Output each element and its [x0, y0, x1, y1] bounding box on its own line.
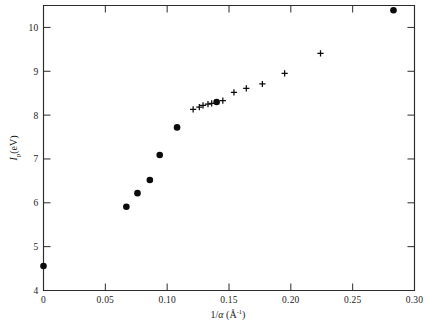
data-point-circle: [156, 152, 163, 159]
x-tick-label: 0.20: [282, 295, 299, 305]
figure-container: 45678910 00.050.100.150.200.250.30 1/α (…: [0, 0, 433, 328]
data-point-circle: [390, 7, 397, 14]
data-point-plus: [220, 98, 226, 104]
data-point-plus: [190, 106, 196, 112]
y-tick-label: 7: [34, 154, 39, 164]
y-tick-label: 8: [34, 111, 39, 121]
x-tick-label: 0.25: [344, 295, 361, 305]
data-point-plus: [282, 70, 288, 76]
y-axis-tick-label-group: 45678910: [29, 23, 39, 296]
y-tick-label: 4: [34, 286, 39, 296]
x-tick-label: 0.15: [220, 295, 237, 305]
data-point-circle: [134, 190, 141, 197]
y-tick-label: 10: [29, 23, 39, 33]
plot-frame: [44, 6, 415, 291]
y-tick-label: 6: [34, 198, 39, 208]
x-axis-title: 1/α (Å-1): [211, 308, 246, 321]
data-marker-group: [40, 7, 397, 269]
scatter-plot-canvas: 45678910 00.050.100.150.200.250.30 1/α (…: [0, 0, 433, 328]
data-point-plus: [231, 89, 237, 95]
series-plus-marker-series: [190, 50, 324, 112]
y-axis-tick-group: [44, 27, 415, 290]
data-point-circle: [147, 177, 154, 184]
y-axis-title-unit: (eV): [8, 135, 20, 153]
x-tick-label: 0: [41, 295, 46, 305]
series-filled-circle-series: [40, 7, 397, 269]
data-point-plus: [243, 85, 249, 91]
x-tick-label: 0.10: [158, 295, 175, 305]
svg-text:1/α (Å-1): 1/α (Å-1): [211, 308, 246, 321]
y-axis-title: Ip(eV): [8, 135, 22, 161]
x-tick-label: 0.30: [406, 295, 423, 305]
y-tick-label: 9: [34, 67, 39, 77]
svg-text:Ip(eV): Ip(eV): [8, 135, 22, 161]
x-axis-tick-label-group: 00.050.100.150.200.250.30: [41, 295, 423, 305]
data-point-circle: [213, 99, 220, 106]
x-axis-title-close-paren: ): [242, 309, 245, 321]
x-tick-label: 0.05: [97, 295, 114, 305]
data-point-circle: [174, 124, 181, 131]
y-tick-label: 5: [34, 242, 39, 252]
data-point-plus: [317, 50, 323, 56]
data-point-plus: [205, 101, 211, 107]
data-point-circle: [40, 263, 47, 270]
data-point-circle: [123, 203, 130, 210]
data-point-plus: [259, 81, 265, 87]
x-axis-tick-group: [105, 6, 352, 291]
